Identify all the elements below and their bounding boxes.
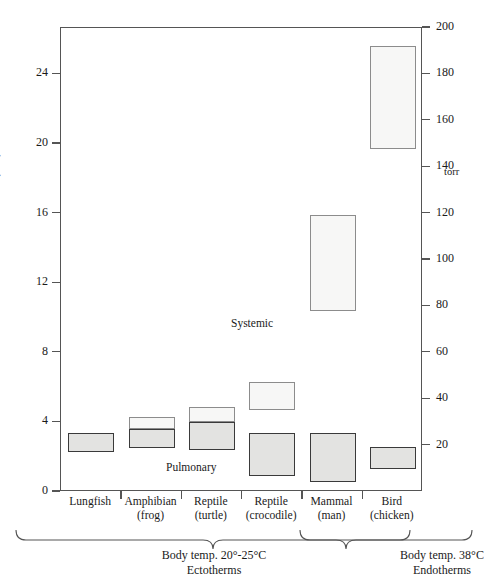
left-tick-mark [52,212,60,213]
right-tick-label: 100 [436,252,476,264]
right-tick-label: 80 [436,298,476,310]
ectotherms-line2: Ectotherms [187,563,242,577]
left-tick-label: 24 [14,66,48,78]
right-tick-label: 40 [436,391,476,403]
category-label-line1: Reptile [194,495,228,508]
bracket-ectotherms [16,530,410,549]
category-label-line1: Mammal [311,495,353,508]
right-tick-mark [422,398,430,399]
right-tick-label: 180 [436,66,476,78]
category-label-line2: (man) [301,509,361,523]
category-label-line2: (turtle) [181,509,241,523]
right-tick-mark [422,444,430,445]
left-tick-label: 16 [14,206,48,218]
right-tick-mark [422,119,430,120]
category-label-line1: Reptile [254,495,288,508]
systemic-bar [370,46,416,149]
pulmonary-bar [249,433,295,477]
group-label-endotherms: Body temp. 38°C Endotherms [298,548,488,577]
right-tick-label: 160 [436,113,476,125]
right-tick-mark [422,212,430,213]
pulmonary-bar [310,433,356,482]
right-tick-mark [422,73,430,74]
ectotherms-line1: Body temp. 20°-25°C [162,548,267,562]
plot-area [60,27,422,491]
left-tick-label: 0 [14,484,48,496]
right-tick-mark [422,351,430,352]
systemic-bar [249,382,295,410]
category-label-line2: (crocodile) [241,509,301,523]
systemic-bar [310,215,356,311]
left-tick-mark [52,490,60,491]
systemic-bar [129,417,175,429]
right-tick-label: 200 [436,20,476,32]
left-tick-mark [52,73,60,74]
category-label-line1: Amphibian [124,495,176,508]
left-tick-mark [52,282,60,283]
right-tick-label: 60 [436,345,476,357]
right-tick-label: 120 [436,206,476,218]
pulmonary-annotation: Pulmonary [166,461,216,473]
pulmonary-bar [370,447,416,470]
category-label-line1: Bird [381,495,402,508]
right-tick-label: 140 [436,159,476,171]
left-tick-mark [52,421,60,422]
pulmonary-bar [189,422,235,450]
pulmonary-bar [129,429,175,448]
systemic-annotation: Systemic [231,317,273,329]
systemic-bar [189,407,235,423]
category-label-line2: (frog) [120,509,180,523]
right-tick-mark [422,26,430,27]
left-tick-mark [52,142,60,143]
group-label-row: Body temp. 20°-25°C Ectotherms Body temp… [0,548,488,577]
right-tick-mark [422,258,430,259]
pressure-chart-figure: Pressure (kPa) torr 24201612840 20018016… [0,0,488,577]
right-tick-mark [422,166,430,167]
left-tick-label: 12 [14,275,48,287]
pulmonary-bar [68,433,114,452]
left-tick-label: 8 [14,345,48,357]
right-tick-mark [422,305,430,306]
bracket-endotherms [300,530,472,549]
left-tick-mark [52,351,60,352]
left-tick-label: 20 [14,136,48,148]
left-tick-label: 4 [14,414,48,426]
category-label-line1: Lungfish [69,495,111,508]
right-tick-label: 20 [436,438,476,450]
endotherms-line1: Body temp. 38°C [400,548,484,562]
category-label-line2: (chicken) [362,509,422,523]
endotherms-line2: Endotherms [413,563,471,577]
